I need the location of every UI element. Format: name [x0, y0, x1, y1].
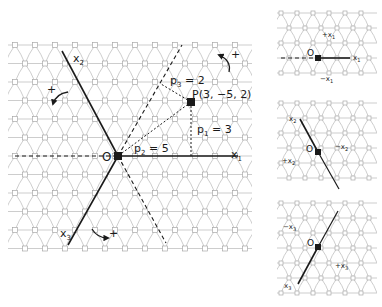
p1-label: p1 = 3 — [197, 123, 232, 138]
panel-x2: O x2 −x2 +x2 — [265, 101, 377, 189]
panel-x2-plus-label: +x2 — [282, 157, 295, 166]
panel-x1-minus-label: −x1 — [320, 75, 333, 84]
panel-x1-origin-label: O — [307, 48, 314, 58]
point-label: P(3, −5, 2) — [192, 88, 251, 101]
panel-x2-minus-label: −x2 — [335, 143, 348, 152]
panel-x3-origin-label: O — [307, 238, 314, 248]
panel-x1-axis-label: x1 — [353, 54, 360, 63]
panel-x2-origin-label: O — [306, 144, 313, 154]
panel-x2-lattice — [265, 101, 377, 180]
p3-label: p3 = 2 — [170, 74, 205, 89]
plus-sign-x1: + — [231, 48, 240, 61]
panel-x3-origin — [315, 244, 321, 250]
panel-x3: O x3 −x3 +x3 — [265, 201, 377, 295]
panel-x3-axis-label: x3 — [284, 282, 291, 291]
panel-x2-axis-label: x2 — [289, 115, 296, 124]
panel-x1-lattice — [265, 11, 377, 75]
panel-x1: O x1 +x1 −x1 — [265, 11, 377, 84]
hexagonal-coordinate-diagram: O P(3, −5, 2) x1 x2 x3 p1 = 3 p2 = 5 p3 … — [0, 0, 382, 307]
origin-point — [114, 152, 122, 160]
x1-axis-label: x1 — [231, 148, 242, 163]
x2-axis-label: x2 — [73, 52, 84, 67]
panel-x2-origin — [315, 149, 321, 155]
x3-axis-label: x3 — [60, 227, 71, 242]
origin-label: O — [102, 150, 111, 164]
panel-x2-negative-axis — [318, 152, 339, 189]
p2-label: p2 = 5 — [134, 142, 169, 157]
x2-axis — [62, 51, 118, 156]
plus-sign-x3: + — [109, 227, 118, 240]
panel-x1-plus-label: +x1 — [322, 31, 335, 40]
plus-sign-x2: + — [47, 83, 56, 96]
panel-x3-minus-label: −x3 — [283, 223, 296, 232]
panel-x1-origin — [315, 55, 321, 61]
